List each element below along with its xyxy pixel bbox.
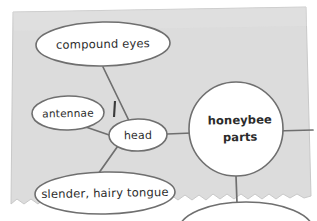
- node-honeybee-parts[interactable]: [189, 82, 283, 176]
- concept-map-graphic: [0, 0, 317, 221]
- diagram-canvas: compound eyes antennae head slender, hai…: [0, 0, 317, 221]
- node-head[interactable]: [109, 118, 168, 151]
- edge-center-to-bottom: [236, 176, 237, 203]
- node-antennae[interactable]: [32, 95, 105, 130]
- edge-head-to-center: [167, 133, 192, 134]
- tick-mark-icon: [114, 101, 115, 117]
